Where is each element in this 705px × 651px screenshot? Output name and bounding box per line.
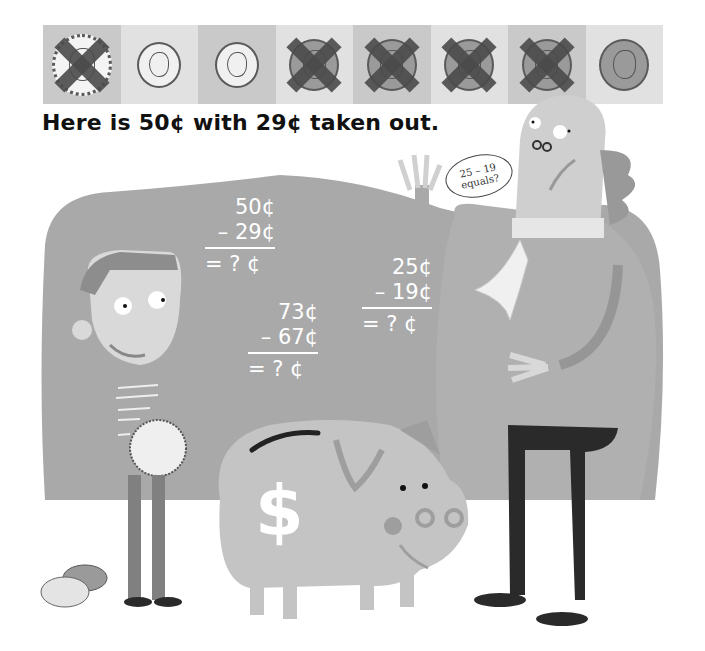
boy-ear [72, 320, 92, 340]
quarter-coin-icon [130, 420, 186, 476]
equation-top: 50¢ [205, 195, 275, 220]
equation-result: = ? ¢ [362, 312, 432, 337]
man-raised-arm [415, 185, 429, 245]
man-head [515, 95, 606, 232]
illustration: $ [0, 0, 705, 651]
equation-rule [362, 307, 432, 309]
dollar-sign-icon: $ [255, 470, 304, 552]
equation-result: = ? ¢ [205, 252, 275, 277]
man-coat [436, 204, 656, 500]
equation-top: 25¢ [362, 255, 432, 280]
boy-leg [128, 475, 141, 600]
equation-2: 73¢ – 67¢ = ? ¢ [248, 300, 318, 382]
shoe [474, 593, 526, 607]
equation-minus: – 67¢ [248, 325, 318, 350]
boy-leg [152, 475, 165, 600]
equation-result: = ? ¢ [248, 357, 318, 382]
man-collar [512, 218, 604, 238]
equation-rule [205, 247, 275, 249]
equation-rule [248, 352, 318, 354]
nickel-coin-icon [41, 577, 89, 607]
equation-minus: – 19¢ [362, 280, 432, 305]
equation-minus: – 29¢ [205, 220, 275, 245]
equation-3: 25¢ – 19¢ = ? ¢ [362, 255, 432, 337]
equation-1: 50¢ – 29¢ = ? ¢ [205, 195, 275, 277]
equation-top: 73¢ [248, 300, 318, 325]
shoe [536, 612, 588, 626]
